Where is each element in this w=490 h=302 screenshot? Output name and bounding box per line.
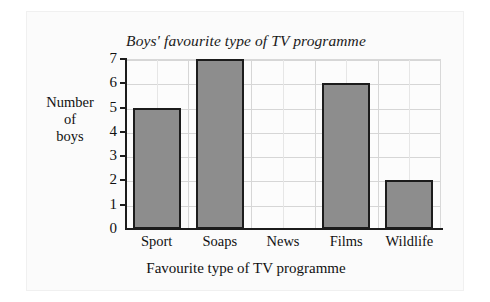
gridline-vertical	[315, 60, 316, 229]
bar-wildlife	[385, 180, 433, 229]
y-tick-label: 3	[99, 148, 117, 163]
x-axis-label: Favourite type of TV programme	[27, 260, 465, 277]
y-axis-label-line-2: of	[31, 111, 109, 128]
x-axis-line	[125, 228, 443, 230]
chart-title: Boys' favourite type of TV programme	[27, 32, 465, 50]
y-tick-mark	[120, 107, 126, 109]
y-tick-label: 5	[99, 100, 117, 115]
x-tick-label-soaps: Soaps	[188, 233, 251, 250]
y-tick-label: 1	[99, 197, 117, 212]
y-tick-mark	[120, 58, 126, 60]
gridline-vertical	[188, 60, 189, 229]
y-tick-mark	[120, 131, 126, 133]
y-tick-label: 6	[99, 75, 117, 90]
bar-sport	[133, 108, 181, 229]
y-axis-label: Number of boys	[31, 94, 109, 145]
x-tick-label-wildlife: Wildlife	[378, 233, 441, 250]
gridline-vertical	[251, 60, 252, 229]
y-tick-label: 2	[99, 172, 117, 187]
x-tick-label-sport: Sport	[125, 233, 188, 250]
y-tick-mark	[120, 179, 126, 181]
x-tick-label-films: Films	[315, 233, 378, 250]
bar-soaps	[196, 59, 244, 229]
plot-area	[125, 59, 441, 229]
y-tick-label: 7	[99, 51, 117, 66]
y-tick-label: 0	[99, 221, 117, 236]
y-tick-mark	[120, 155, 126, 157]
y-tick-label: 4	[99, 124, 117, 139]
y-axis-label-line-1: Number	[31, 94, 109, 111]
gridline-vertical-minor	[283, 60, 284, 229]
y-tick-mark	[120, 204, 126, 206]
x-tick-label-news: News	[251, 233, 314, 250]
chart-figure: Boys' favourite type of TV programme Num…	[26, 11, 464, 291]
bar-films	[322, 83, 370, 229]
y-tick-mark	[120, 82, 126, 84]
y-axis-label-line-3: boys	[31, 128, 109, 145]
gridline-vertical	[378, 60, 379, 229]
